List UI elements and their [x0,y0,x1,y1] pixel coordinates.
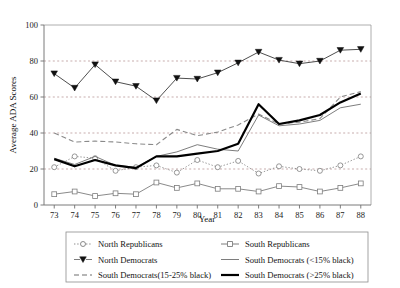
x-tick-label-84: 84 [275,210,284,220]
marker-square-south-republicans-11 [277,184,282,189]
series-north-republicans [52,154,364,176]
y-tick-label-20: 20 [30,164,39,174]
marker-circle-north-republicans-12 [297,167,302,172]
series-south-republicans [52,180,363,198]
marker-square-south-republicans-12 [297,185,302,190]
marker-triangle-north-democrats-12 [296,61,303,67]
legend-label-south-democrats-15-black: South Democrats (<15% black) [245,255,354,265]
marker-square-south-republicans-10 [256,189,261,194]
x-tick-label-76: 76 [111,210,120,220]
ada-scores-line-chart: 020406080100 737475767778798081828384858… [0,0,400,288]
series-north-democrats [51,47,364,104]
chart-container: 020406080100 737475767778798081828384858… [0,0,400,288]
series-line-south-democrats-15-25-black [54,92,361,145]
x-tick-label-75: 75 [91,210,100,220]
y-tick-label-80: 80 [30,56,39,66]
marker-circle-north-republicans-6 [174,170,179,175]
marker-triangle-north-democrats-8 [214,70,221,76]
marker-square-south-republicans-2 [93,194,98,199]
marker-circle-north-republicans-10 [256,171,261,176]
x-tick-label-74: 74 [70,210,79,220]
x-tick-label-87: 87 [336,210,345,220]
series-line-north-democrats [54,49,361,100]
marker-square-south-republicans-14 [338,186,343,191]
page-header-ghost-text [150,1,260,9]
marker-triangle-north-democrats-9 [235,60,242,66]
x-axis-title: Year [199,214,216,224]
marker-square-south-republicans-9 [236,186,241,191]
series-south-democrats-15-black [54,104,361,167]
marker-square-south-republicans-4 [134,192,139,197]
x-tick-label-83: 83 [254,210,263,220]
marker-square-south-republicans-6 [174,186,179,191]
marker-circle-north-republicans-13 [317,168,322,173]
marker-circle-legend-north-republicans-0 [81,242,86,247]
data-series [51,47,364,199]
series-line-south-republicans [54,183,361,197]
y-tick-label-40: 40 [30,128,39,138]
marker-circle-north-republicans-8 [215,165,220,170]
y-axis-tick-labels: 020406080100 [25,20,38,210]
x-tick-label-85: 85 [295,210,304,220]
marker-circle-north-republicans-3 [113,168,118,173]
marker-square-south-republicans-15 [358,181,363,186]
marker-circle-north-republicans-15 [358,154,363,159]
x-tick-label-82: 82 [234,210,243,220]
marker-square-south-republicans-7 [195,181,200,186]
y-tick-label-0: 0 [34,200,38,210]
marker-triangle-north-democrats-10 [255,49,262,55]
legend-label-south-democrats-15-25-black: South Democrats(15-25% black) [98,270,211,280]
x-tick-label-79: 79 [173,210,182,220]
marker-circle-north-republicans-9 [236,158,241,163]
marker-triangle-north-democrats-5 [153,98,160,104]
marker-circle-north-republicans-11 [277,164,282,169]
y-tick-label-100: 100 [25,20,38,30]
series-line-south-democrats-25-black [54,93,361,168]
series-south-democrats-15-25-black [54,92,361,145]
x-tick-label-78: 78 [152,210,161,220]
marker-square-south-republicans-1 [72,189,77,194]
marker-circle-north-republicans-1 [72,154,77,159]
marker-square-south-republicans-0 [52,192,57,197]
marker-square-south-republicans-8 [215,186,220,191]
x-tick-label-77: 77 [132,210,141,220]
marker-square-south-republicans-5 [154,180,159,185]
marker-circle-north-republicans-5 [154,163,159,168]
x-tick-label-86: 86 [316,210,325,220]
x-tick-label-73: 73 [50,210,59,220]
legend-label-north-democrats: North Democrats [98,255,158,265]
marker-triangle-north-democrats-1 [71,85,78,91]
marker-circle-north-republicans-0 [52,165,57,170]
marker-square-south-republicans-3 [113,191,118,196]
series-south-democrats-25-black [54,93,361,168]
marker-square-south-republicans-13 [318,189,323,194]
series-line-south-democrats-15-black [54,104,361,167]
marker-circle-north-republicans-14 [338,163,343,168]
x-tick-label-88: 88 [357,210,366,220]
legend-label-south-democrats-25-black: South Democrats (>25% black) [245,270,354,280]
legend-label-north-republicans: North Republicans [98,239,163,249]
chart-legend: North RepublicansSouth RepublicansNorth … [66,232,368,282]
legend-label-south-republicans: South Republicans [245,239,310,249]
y-tick-label-60: 60 [30,92,39,102]
y-axis-title: Average ADA Scores [8,76,18,153]
marker-square-legend-south-republicans-0 [228,242,233,247]
marker-circle-north-republicans-7 [195,158,200,163]
